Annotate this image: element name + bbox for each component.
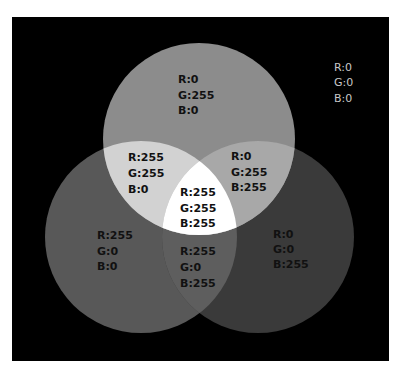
label-g: G:255 — [128, 167, 164, 180]
label-g: G:255 — [231, 166, 267, 179]
label-g: G:0 — [180, 261, 201, 274]
label-r: R:255 — [128, 151, 164, 164]
label-b: B:0 — [128, 183, 149, 196]
label-r: R:255 — [97, 229, 133, 242]
label-b: B:0 — [178, 104, 199, 117]
label-r: R:0 — [231, 150, 252, 163]
label-b: B:255 — [273, 258, 309, 271]
label-g: G:0 — [273, 243, 294, 256]
label-background: R:0 G:0 B:0 — [334, 61, 353, 105]
label-b: B:0 — [334, 92, 352, 105]
label-b: B:0 — [97, 260, 118, 273]
label-g: G:0 — [97, 245, 118, 258]
label-r: R:0 — [334, 61, 352, 74]
label-b: B:255 — [180, 217, 216, 230]
label-b: B:255 — [231, 181, 267, 194]
label-r: R:0 — [273, 228, 294, 241]
label-g: G:255 — [178, 89, 214, 102]
label-r: R:0 — [178, 73, 199, 86]
label-white: R:255 G:255 B:255 — [180, 186, 216, 230]
label-r: R:255 — [180, 186, 216, 199]
label-g: G:255 — [180, 202, 216, 215]
label-b: B:255 — [180, 277, 216, 290]
rgb-venn-diagram: R:0 G:0 B:0 R:0 G:255 B:0 R:255 G:255 B:… — [0, 0, 401, 376]
label-r: R:255 — [180, 245, 216, 258]
label-g: G:0 — [334, 76, 353, 89]
